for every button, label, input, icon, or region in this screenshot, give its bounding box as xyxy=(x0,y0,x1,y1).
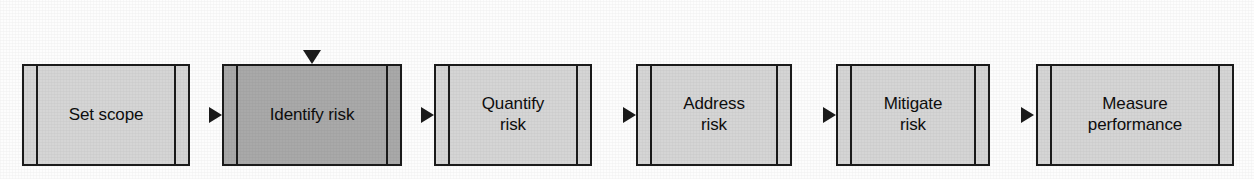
connector-arrowhead-1 xyxy=(209,107,222,123)
process-node-label: Measure performance xyxy=(1072,94,1198,135)
process-node-label: Identify risk xyxy=(254,105,371,126)
process-rule-right-icon xyxy=(386,66,388,164)
feedback-loop-arrowhead xyxy=(303,50,321,64)
process-rule-right-icon xyxy=(1218,66,1220,164)
process-node-address-risk[interactable]: Address risk xyxy=(636,64,792,166)
feedback-loop-drop xyxy=(0,33,2,51)
feedback-loop-top-rail xyxy=(0,31,824,33)
process-rule-left-icon xyxy=(448,66,450,164)
connector-arrowhead-4 xyxy=(823,107,836,123)
process-node-label: Mitigate risk xyxy=(868,94,959,135)
process-node-label: Address risk xyxy=(667,94,761,135)
process-node-label: Set scope xyxy=(53,105,160,126)
process-node-mitigate-risk[interactable]: Mitigate risk xyxy=(836,64,990,166)
flowchart-canvas: Set scope Identify risk Quantify risk Ad… xyxy=(0,0,1254,179)
process-rule-left-icon xyxy=(36,66,38,164)
process-rule-left-icon xyxy=(650,66,652,164)
process-node-quantify-risk[interactable]: Quantify risk xyxy=(434,64,592,166)
process-rule-right-icon xyxy=(974,66,976,164)
process-node-identify-risk[interactable]: Identify risk xyxy=(222,64,402,166)
connector-arrowhead-2 xyxy=(421,107,434,123)
connector-arrowhead-3 xyxy=(623,107,636,123)
process-node-set-scope[interactable]: Set scope xyxy=(22,64,190,166)
process-rule-left-icon xyxy=(1050,66,1052,164)
process-node-label: Quantify risk xyxy=(466,94,561,135)
process-rule-right-icon xyxy=(776,66,778,164)
process-rule-left-icon xyxy=(850,66,852,164)
process-node-measure-performance[interactable]: Measure performance xyxy=(1036,64,1234,166)
feedback-loop-riser xyxy=(0,0,2,31)
connector-line-5 xyxy=(0,59,31,61)
process-rule-right-icon xyxy=(576,66,578,164)
process-rule-right-icon xyxy=(174,66,176,164)
process-rule-left-icon xyxy=(236,66,238,164)
connector-arrowhead-5 xyxy=(1021,107,1034,123)
